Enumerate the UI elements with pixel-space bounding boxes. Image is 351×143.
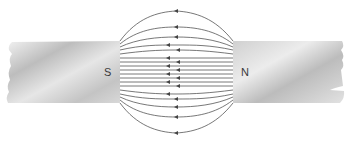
- north-pole-label: N: [241, 66, 249, 78]
- south-pole-label: S: [104, 66, 111, 78]
- field-arrows: [166, 9, 180, 135]
- south-magnet: [7, 41, 120, 103]
- north-magnet: [233, 41, 344, 103]
- field-lines: [120, 11, 233, 133]
- magnet-field-diagram: [0, 0, 351, 143]
